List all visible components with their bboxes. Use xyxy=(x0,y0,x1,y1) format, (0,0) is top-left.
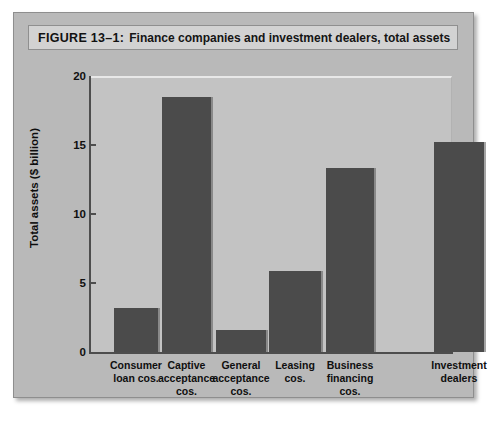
x-axis-label-line: cos. xyxy=(204,385,278,398)
bar xyxy=(216,330,266,352)
bar xyxy=(326,168,374,352)
x-axis-label-line: dealers xyxy=(422,372,493,385)
y-axis-tick-label: 0 xyxy=(80,346,86,358)
y-axis-tick-label: 15 xyxy=(73,139,86,151)
bar xyxy=(114,308,158,352)
y-axis-tick-mark xyxy=(89,213,96,215)
bar xyxy=(269,271,321,352)
x-axis-label: Investmentdealers xyxy=(422,359,493,385)
figure-panel: FIGURE 13–1: Finance companies and inves… xyxy=(13,12,474,398)
y-axis-tick-mark xyxy=(89,144,96,146)
x-axis-label-line: cos. xyxy=(314,385,386,398)
y-axis-tick: 20 xyxy=(68,70,96,82)
y-axis-tick-label: 10 xyxy=(73,208,86,220)
y-axis-tick-label: 20 xyxy=(73,70,86,82)
y-axis-title-label: Total assets ($ billion) xyxy=(28,128,40,248)
y-axis-tick-label: 5 xyxy=(80,277,86,289)
y-axis-title: Total assets ($ billion) xyxy=(26,63,42,313)
bar xyxy=(162,97,211,352)
y-axis-tick: 10 xyxy=(68,208,96,220)
y-axis-tick: 15 xyxy=(68,139,96,151)
x-axis-label: Businessfinancingcos. xyxy=(314,359,386,398)
x-axis-line xyxy=(89,352,453,354)
x-axis-label-line: financing xyxy=(314,372,386,385)
figure-caption-bar: FIGURE 13–1: Finance companies and inves… xyxy=(28,25,458,50)
figure-number-label: FIGURE 13–1: xyxy=(38,31,124,45)
y-axis-tick: 5 xyxy=(68,277,96,289)
y-axis-tick: 0 xyxy=(68,346,96,358)
figure-title-text: Finance companies and investment dealers… xyxy=(129,31,450,45)
x-axis-label-line: Business xyxy=(314,359,386,372)
bar xyxy=(434,142,484,352)
y-axis-tick-mark xyxy=(89,282,96,284)
bar-chart: Total assets ($ billion) 05101520 Consum… xyxy=(28,57,458,385)
x-axis-label-line: Investment xyxy=(422,359,493,372)
